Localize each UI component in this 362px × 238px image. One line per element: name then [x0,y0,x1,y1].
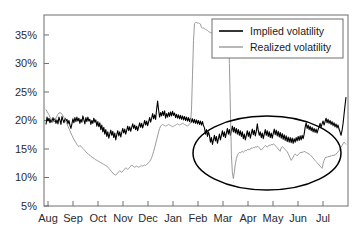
chart-legend: Implied volatility Realized volatility [212,19,343,58]
x-axis-tick-label: Apr [239,212,256,224]
y-axis-tick-label: 25% [15,86,37,98]
x-axis-tick-label: Sep [63,212,83,224]
x-axis-tick-label: Aug [38,212,58,224]
x-axis-tick-label: May [263,212,284,224]
legend-label-realized-volatility: Realized volatility [250,41,332,53]
x-axis-tick-label: Jan [164,212,182,224]
x-axis-tick-label: Jul [316,212,330,224]
y-axis-tick-label: 10% [15,171,37,183]
x-axis-tick-label: Mar [214,212,233,224]
x-axis-tick-label: Oct [89,212,106,224]
x-axis-tick-label: Nov [113,212,133,224]
volatility-chart-figure: 5%10%15%20%25%30%35% AugSepOctNovDecJanF… [0,0,362,238]
y-axis-tick-label: 30% [15,57,37,69]
x-axis-tick-label: Dec [138,212,158,224]
chart-canvas: 5%10%15%20%25%30%35% AugSepOctNovDecJanF… [0,0,362,238]
y-axis-tick-label: 5% [21,200,37,212]
legend-label-implied-volatility: Implied volatility [250,25,325,37]
x-axis-tick-label: Feb [189,212,208,224]
x-axis-tick-label: Jun [289,212,307,224]
y-axis-tick-label: 15% [15,143,37,155]
y-axis-tick-label: 20% [15,114,37,126]
y-axis-tick-label: 35% [15,29,37,41]
